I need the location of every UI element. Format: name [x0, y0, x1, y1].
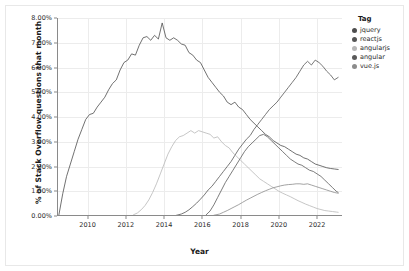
- y-tick-label: 1.00%: [31, 187, 52, 195]
- x-tick-mark: [87, 216, 88, 219]
- x-tick-mark: [240, 216, 241, 219]
- series-line-angular: [206, 134, 338, 214]
- legend-swatch-icon: [352, 28, 357, 33]
- legend-swatch-icon: [352, 37, 357, 42]
- x-tick-label: 2012: [118, 221, 135, 229]
- y-tick-label: 7.00%: [31, 39, 52, 47]
- legend-item-reactjs[interactable]: reactjs: [352, 35, 403, 43]
- y-tick-label: 2.00%: [31, 163, 52, 171]
- legend-item-jquery[interactable]: jquery: [352, 26, 403, 34]
- x-tick-label: 2016: [194, 221, 211, 229]
- legend-item-label: angular: [360, 53, 385, 61]
- legend-items: jqueryreactjsangularjsangularvue.js: [352, 26, 403, 70]
- legend-title: Tag: [358, 15, 403, 23]
- y-tick-label: 5.00%: [31, 88, 52, 96]
- legend-swatch-icon: [352, 64, 357, 69]
- x-tick-mark: [278, 216, 279, 219]
- x-tick-label: 2022: [309, 221, 326, 229]
- series-line-angularjs: [134, 131, 339, 215]
- x-tick-mark: [164, 216, 165, 219]
- x-tick-mark: [202, 216, 203, 219]
- x-tick-label: 2010: [79, 221, 96, 229]
- legend-item-label: jquery: [360, 26, 381, 34]
- x-axis-title: Year: [57, 247, 342, 256]
- legend-swatch-icon: [352, 55, 357, 60]
- legend-item-label: angularjs: [360, 44, 390, 52]
- legend-item-angularjs[interactable]: angularjs: [352, 44, 403, 52]
- legend-item-label: vue.js: [360, 62, 379, 70]
- x-tick-mark: [317, 216, 318, 219]
- legend-item-label: reactjs: [360, 35, 382, 43]
- y-tick-label: 6.00%: [31, 64, 52, 72]
- legend-item-vue-js[interactable]: vue.js: [352, 62, 403, 70]
- y-tick-label: 4.00%: [31, 113, 52, 121]
- y-tick-label: 8.00%: [31, 14, 52, 22]
- legend: Tag jqueryreactjsangularjsangularvue.js: [349, 12, 405, 75]
- series-lines: [57, 18, 342, 216]
- legend-item-angular[interactable]: angular: [352, 53, 403, 61]
- y-tick-label: 0.00%: [31, 212, 52, 220]
- plot-area: 0.00%1.00%2.00%3.00%4.00%5.00%6.00%7.00%…: [57, 18, 342, 216]
- x-tick-label: 2020: [271, 221, 288, 229]
- chart-figure: % of Stack Overflow questions that month…: [0, 0, 409, 271]
- y-tick-label: 3.00%: [31, 138, 52, 146]
- x-tick-label: 2018: [232, 221, 249, 229]
- x-tick-mark: [125, 216, 126, 219]
- legend-swatch-icon: [352, 46, 357, 51]
- x-tick-label: 2014: [156, 221, 173, 229]
- series-line-vue-js: [214, 184, 338, 215]
- series-line-jquery: [59, 23, 338, 215]
